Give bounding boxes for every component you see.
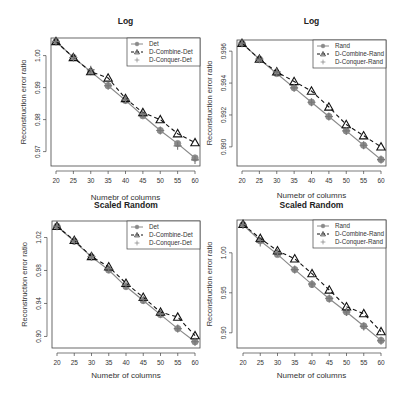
circle-marker-icon — [135, 225, 139, 229]
y-tick-label: 0.90 — [220, 326, 227, 339]
y-axis: 0.900.940.981.02 — [35, 231, 47, 343]
legend-marker — [321, 44, 325, 48]
legend-label: D-Conquer-Rand — [335, 58, 383, 66]
chart-title: Log — [118, 16, 134, 26]
legend-label: D-Combine-Rand — [335, 50, 384, 57]
circle-marker-icon — [135, 42, 139, 46]
legend: DetD-Combine-DetD-Conquer-Det — [127, 38, 200, 66]
x-tick-label: 40 — [308, 359, 316, 366]
y-tick-label: 0.99 — [34, 81, 41, 94]
legend: RandD-Combine-RandD-Conquer-Rand — [313, 40, 386, 68]
circle-marker-icon — [321, 224, 325, 228]
legend-label: D-Conquer-Rand — [335, 238, 383, 246]
legend-marker — [135, 42, 139, 46]
x-tick-label: 40 — [308, 177, 316, 184]
y-axis: 0.900.951.00 — [220, 246, 232, 339]
y-tick-label: 0.996 — [220, 43, 227, 60]
x-tick-label: 30 — [87, 177, 95, 184]
x-tick-label: 45 — [140, 359, 148, 366]
legend-label: D-Combine-Det — [149, 231, 193, 238]
y-axis: 0.970.980.991.00 — [34, 49, 46, 158]
chart-panel-4: Scaled Random202530354045505560Numebr of… — [205, 200, 386, 380]
legend-marker — [321, 224, 325, 228]
legend-label: Det — [149, 40, 159, 47]
legend-marker — [135, 225, 139, 229]
x-tick-label: 35 — [291, 359, 299, 366]
x-tick-label: 25 — [257, 359, 265, 366]
chart-panel-1: Log202530354045505560Numebr of columns0.… — [19, 16, 200, 202]
triangle-marker-icon — [360, 309, 368, 316]
y-axis-label: Reconstruction error ratio — [205, 242, 214, 327]
x-tick-label: 50 — [157, 177, 165, 184]
x-tick-label: 35 — [105, 359, 113, 366]
y-tick-label: 0.992 — [220, 106, 227, 123]
x-axis: 202530354045505560 — [52, 171, 199, 184]
x-tick-label: 50 — [343, 359, 351, 366]
x-tick-label: 55 — [360, 359, 368, 366]
triangle-marker-icon — [359, 131, 367, 138]
triangle-marker-icon — [377, 143, 385, 150]
legend-label: D-Conquer-Det — [149, 56, 192, 64]
x-tick-label: 55 — [174, 359, 182, 366]
x-tick-label: 20 — [239, 359, 247, 366]
x-tick-label: 20 — [53, 359, 61, 366]
legend-label: D-Combine-Det — [149, 48, 193, 55]
x-tick-label: 50 — [343, 177, 351, 184]
triangle-marker-icon — [291, 255, 299, 262]
x-axis: 202530354045505560 — [239, 353, 385, 366]
chart-panel-2: Log202530354045505560Numebr of columns0.… — [205, 16, 386, 200]
legend: DetD-Combine-DetD-Conquer-Det — [127, 221, 200, 249]
chart-panel-3: Scaled Random202530354045505560Numebr of… — [20, 200, 200, 380]
x-tick-label: 45 — [139, 177, 147, 184]
y-axis-label: Reconstruction error ratio — [20, 242, 29, 327]
legend-label: Rand — [335, 42, 351, 49]
y-tick-label: 0.990 — [220, 138, 227, 155]
circle-marker-icon — [321, 44, 325, 48]
x-tick-label: 25 — [71, 359, 79, 366]
x-tick-label: 40 — [122, 177, 130, 184]
x-tick-label: 60 — [377, 177, 385, 184]
chart-title: Scaled Random — [94, 200, 158, 210]
y-tick-label: 1.00 — [220, 246, 227, 259]
x-tick-label: 30 — [274, 359, 282, 366]
x-tick-label: 25 — [256, 177, 264, 184]
x-tick-label: 20 — [52, 177, 60, 184]
x-tick-label: 55 — [360, 177, 368, 184]
x-tick-label: 30 — [88, 359, 96, 366]
triangle-marker-icon — [156, 115, 164, 122]
y-tick-label: 0.98 — [34, 113, 41, 126]
x-tick-label: 35 — [291, 177, 299, 184]
chart-title: Scaled Random — [280, 200, 344, 210]
x-axis-label: Numebr of columns — [91, 371, 160, 380]
y-tick-label: 0.95 — [220, 286, 227, 299]
y-tick-label: 1.02 — [35, 231, 42, 244]
x-tick-label: 25 — [70, 177, 78, 184]
legend-label: Det — [149, 223, 159, 230]
x-tick-label: 45 — [325, 177, 333, 184]
legend: RandD-Combine-RandD-Conquer-Rand — [313, 220, 386, 248]
y-tick-label: 0.98 — [35, 264, 42, 277]
x-axis: 202530354045505560 — [53, 353, 199, 366]
x-tick-label: 40 — [122, 359, 130, 366]
x-tick-label: 45 — [326, 359, 334, 366]
legend-label: D-Combine-Rand — [335, 230, 384, 237]
y-tick-label: 0.97 — [34, 145, 41, 158]
x-tick-label: 55 — [174, 177, 182, 184]
x-tick-label: 35 — [105, 177, 113, 184]
x-axis-label: Numebr of columns — [277, 191, 346, 200]
x-tick-label: 60 — [191, 177, 199, 184]
y-axis-label: Reconstruction error ratio — [19, 60, 28, 145]
figure-grid: Log202530354045505560Numebr of columns0.… — [0, 0, 403, 396]
y-tick-label: 1.00 — [34, 49, 41, 62]
y-axis: 0.9900.9920.9940.996 — [220, 43, 232, 155]
triangle-marker-icon — [191, 138, 199, 145]
y-tick-label: 0.94 — [35, 297, 42, 310]
x-axis: 202530354045505560 — [238, 171, 385, 184]
x-tick-label: 60 — [191, 359, 199, 366]
y-axis-label: Reconstruction error ratio — [205, 61, 214, 146]
legend-label: D-Conquer-Det — [149, 239, 192, 247]
x-tick-label: 60 — [377, 359, 385, 366]
x-axis-label: Numebr of columns — [277, 371, 346, 380]
y-tick-label: 0.90 — [35, 330, 42, 343]
x-tick-label: 50 — [157, 359, 165, 366]
